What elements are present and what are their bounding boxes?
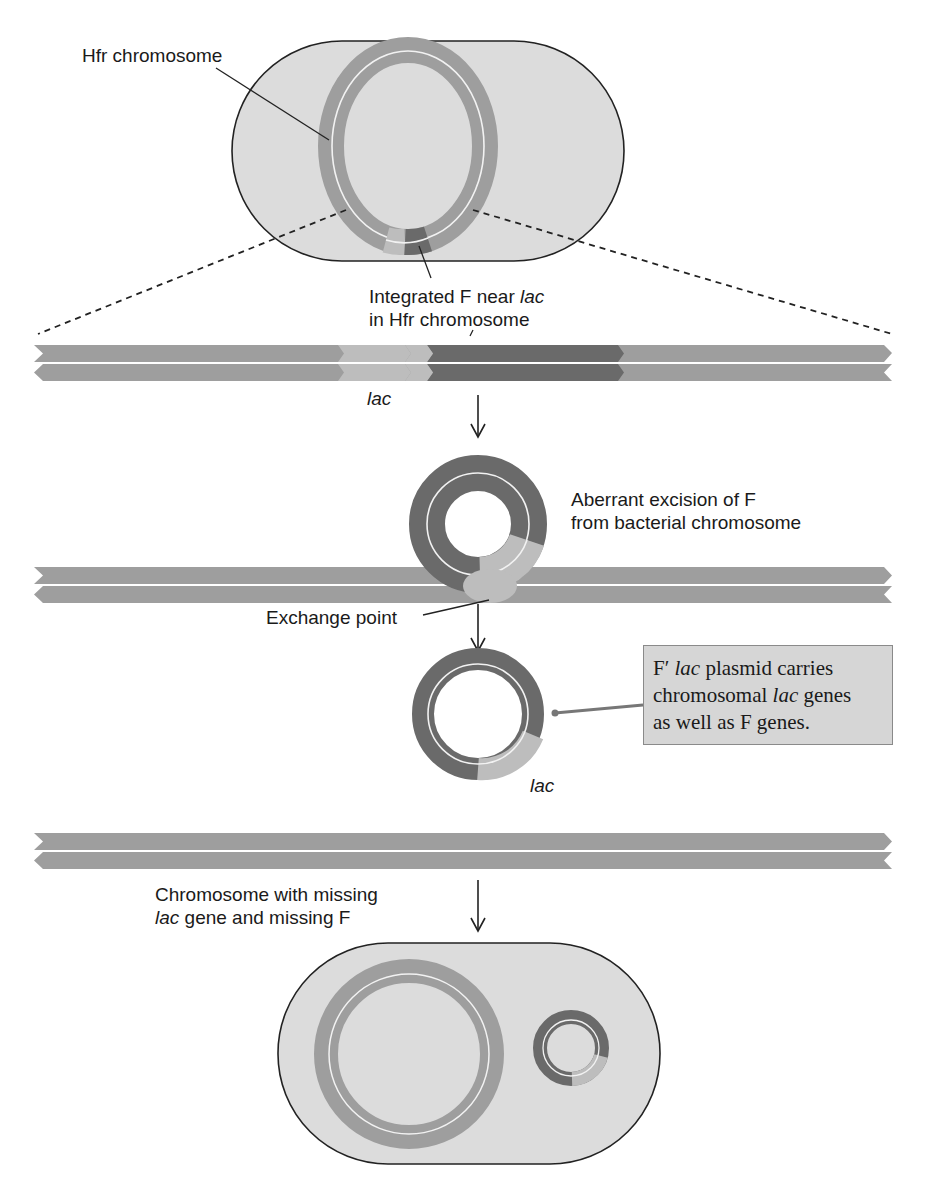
- callout-connector: [552, 705, 644, 717]
- chromosome-missing-lac-f: [34, 833, 892, 869]
- integrated-f-line1: Integrated F near lac: [369, 286, 544, 307]
- integrated-f-line2: in Hfr chromosome: [369, 309, 530, 330]
- lac-label-plasmid: lac: [530, 774, 554, 797]
- f-prime-plasmid: [423, 659, 533, 769]
- exchange-point-label: Exchange point: [266, 606, 397, 629]
- down-arrow-1: [471, 395, 485, 437]
- down-arrow-2: [471, 604, 485, 651]
- callout-line2: chromosomal lac genes: [653, 683, 851, 707]
- f-prime-cell: [278, 943, 660, 1164]
- zoom-guide-left: [38, 210, 346, 334]
- aberrant-excision-label: Aberrant excision of F from bacterial ch…: [571, 488, 801, 534]
- callout-line1: F′ lac plasmid carries: [653, 656, 833, 680]
- linear-hfr-region: [34, 345, 892, 381]
- integrated-f-label: Integrated F near lac in Hfr chromosome: [369, 285, 544, 331]
- down-arrow-3: [471, 880, 485, 931]
- hfr-chromosome-label: Hfr chromosome: [82, 44, 222, 67]
- lac-label-linear: lac: [367, 387, 391, 410]
- f-prime-callout-box: F′ lac plasmid carries chromosomal lac g…: [643, 645, 893, 745]
- hfr-cell: [232, 41, 624, 261]
- diagram-canvas: [0, 0, 927, 1178]
- missing-lac-f-label: Chromosome with missing lac gene and mis…: [155, 883, 378, 929]
- callout-line3: as well as F genes.: [653, 710, 810, 734]
